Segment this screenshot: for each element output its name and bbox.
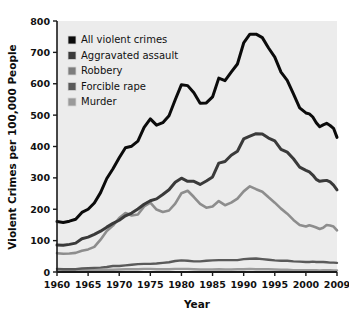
legend-label: Robbery <box>81 65 123 76</box>
x-axis-tick-label: 1975 <box>137 279 163 290</box>
y-axis-tick-label: 500 <box>30 110 50 121</box>
x-axis-tick-label: 1960 <box>44 279 71 290</box>
chart-canvas: 0100200300400500600700800 19601965197019… <box>0 0 349 315</box>
legend-label: Forcible rape <box>81 81 146 92</box>
x-axis-title: Year <box>183 298 211 310</box>
x-axis-tick-label: 1970 <box>106 279 133 290</box>
legend-swatch <box>68 67 76 75</box>
y-axis-title: Violent Crimes per 100,000 People <box>6 44 18 249</box>
legend-swatch <box>68 98 76 106</box>
legend-label: Murder <box>81 96 117 107</box>
y-axis-tick-label: 700 <box>30 47 50 58</box>
x-axis-tick-label: 1995 <box>262 279 288 290</box>
x-axis-tick-label: 2000 <box>293 279 320 290</box>
y-axis-tick-label: 0 <box>43 267 50 278</box>
x-axis-tick-label: 1990 <box>230 279 257 290</box>
legend-swatch <box>68 52 76 60</box>
x-axis-tick-label: 1985 <box>199 279 225 290</box>
y-axis-tick-label: 800 <box>30 16 50 27</box>
series-line <box>57 269 337 271</box>
legend-swatch <box>68 36 76 44</box>
y-axis-tick-label: 300 <box>30 172 50 183</box>
y-axis-tick-label: 100 <box>30 235 50 246</box>
legend-label: All violent crimes <box>81 34 167 45</box>
violent-crime-line-chart: 0100200300400500600700800 19601965197019… <box>0 0 349 315</box>
x-axis-tick-label: 1965 <box>75 279 101 290</box>
x-axis-tick-label: 2009 <box>324 279 349 290</box>
y-axis-tick-label: 200 <box>30 204 50 215</box>
y-axis-tick-label: 600 <box>30 78 50 89</box>
y-axis-tick-label: 400 <box>30 141 50 152</box>
legend-swatch <box>68 83 76 91</box>
x-axis-tick-label: 1980 <box>168 279 195 290</box>
legend-label: Aggravated assault <box>81 50 178 61</box>
